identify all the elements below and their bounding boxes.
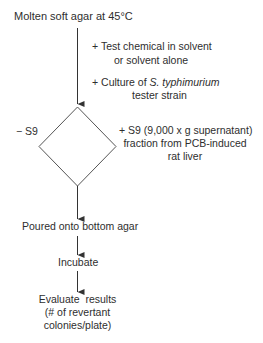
addition-test-chemical-line-2: or solvent alone <box>114 54 188 67</box>
decision-diamond <box>39 107 116 186</box>
addition-line-1-plain: Culture of <box>101 76 147 88</box>
step-evaluate-line-3: colonies/plate) <box>30 319 125 332</box>
addition-test-chemical: + Test chemical in solvent <box>92 40 212 53</box>
start-node-label: Molten soft agar at 45°C <box>14 10 133 23</box>
branch-plus-s9-line-1: + S9 (9,000 x g supernatant) <box>119 124 251 137</box>
organism-name: S. typhimurium <box>150 76 220 88</box>
plus-sign: + <box>92 76 98 88</box>
addition-culture-line-2: tester strain <box>132 89 187 102</box>
branch-plus-s9: + S9 (9,000 x g supernatant) fraction fr… <box>119 124 251 163</box>
branch-minus-s9: − S9 <box>16 125 38 138</box>
branch-plus-s9-line-3: rat liver <box>119 150 251 163</box>
step-evaluate-label: Evaluate results (# of revertant colonie… <box>30 293 125 332</box>
plus-sign: + <box>92 40 98 52</box>
addition-line-1: Test chemical in solvent <box>101 40 212 52</box>
ames-test-flowchart: Molten soft agar at 45°C + Test chemical… <box>0 0 263 343</box>
step-evaluate-line-1: Evaluate results <box>30 293 125 306</box>
addition-culture: + Culture of S. typhimurium <box>92 76 220 89</box>
step-incubate-label: Incubate <box>58 256 98 269</box>
step-pour-label: Poured onto bottom agar <box>22 220 138 233</box>
branch-plus-s9-line-2: fraction from PCB-induced <box>119 137 251 150</box>
step-evaluate-line-2: (# of revertant <box>30 306 125 319</box>
